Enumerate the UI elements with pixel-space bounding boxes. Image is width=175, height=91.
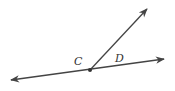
line-through-c [11,59,164,80]
geometry-diagram: C D [0,0,175,91]
label-c: C [74,55,83,68]
label-d: D [114,52,124,65]
point-c [88,68,92,72]
